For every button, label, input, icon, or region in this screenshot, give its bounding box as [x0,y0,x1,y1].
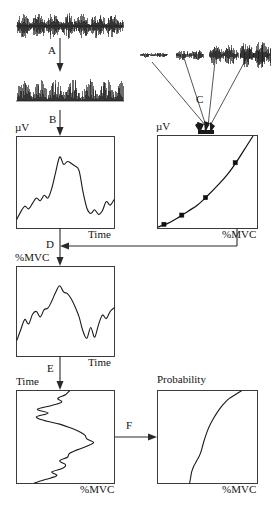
calibration-data-point [233,161,237,165]
step-label-e: E [47,363,54,374]
arrow-e [57,356,64,390]
calibration-data-point [180,213,184,217]
envelope-plot-xlabel: Time [88,229,111,240]
arrow-f [115,434,157,441]
calibration-data-point [203,196,207,200]
connector-calibration-to-d [60,228,237,249]
probability-plot [158,391,258,484]
step-label-d: D [46,239,54,250]
step-label-b: B [49,114,56,125]
raw-emg-signal [16,13,124,38]
arrow-d [57,228,64,266]
step-label-a: A [48,45,56,56]
arrow-a [57,38,64,72]
arrow-b [57,110,64,136]
transposed-plot [17,391,115,484]
diagram-canvas: A B C D E F µV Time µV %MVC %MVC Time Ti… [0,0,273,513]
step-label-c: C [196,94,203,105]
calibration-plot-ylabel: µV [156,121,170,132]
mvc-time-plot [17,267,115,357]
envelope-plot-ylabel: µV [15,122,29,133]
calibration-data-point [162,222,166,226]
calibration-plot [158,136,258,229]
envelope-plot [17,137,115,229]
rectified-emg-signal [16,79,124,101]
calibration-emg-bursts [140,42,271,68]
mvc-time-plot-xlabel: Time [88,357,111,368]
mvc-time-plot-ylabel: %MVC [15,252,49,263]
transposed-plot-xlabel: %MVC [80,484,114,495]
calibration-plot-xlabel: %MVC [222,229,256,240]
probability-plot-xlabel: %MVC [222,484,256,495]
probability-plot-ylabel: Probability [157,374,206,385]
step-label-f: F [126,420,132,431]
transposed-plot-ylabel: Time [16,376,39,387]
